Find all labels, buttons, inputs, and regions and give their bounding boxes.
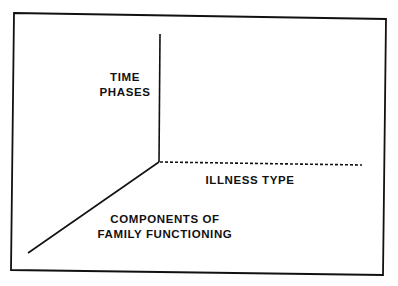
- time-phases-line-1: TIME: [90, 70, 160, 85]
- diagram-graphics: [0, 0, 398, 286]
- illness-type-line-1: ILLNESS TYPE: [190, 173, 310, 188]
- illness-type-label: ILLNESS TYPE: [190, 173, 310, 188]
- family-functioning-line-1: COMPONENTS OF: [80, 212, 250, 227]
- time-phases-label: TIME PHASES: [90, 70, 160, 100]
- illness-type-axis: [160, 162, 362, 165]
- time-phases-line-2: PHASES: [90, 85, 160, 100]
- diagram-canvas: TIME PHASES ILLNESS TYPE COMPONENTS OF F…: [0, 0, 398, 286]
- family-functioning-label: COMPONENTS OF FAMILY FUNCTIONING: [80, 212, 250, 242]
- family-functioning-line-2: FAMILY FUNCTIONING: [80, 227, 250, 242]
